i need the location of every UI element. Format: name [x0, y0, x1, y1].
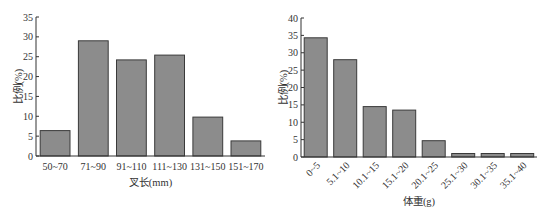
x-tick-label: 0~5 [304, 160, 323, 179]
y-tick-label: 5 [28, 131, 33, 142]
bar-0~5: 0~5: 34.3 [304, 38, 327, 157]
x-tick-label: 5.1~10 [324, 160, 352, 188]
y-tick-label: 40 [288, 13, 298, 24]
fork-length-chart: 50~70: 6.450~7071~90: 2971~9091~110: 24.… [0, 0, 270, 211]
y-axis-title: 比例(%) [12, 68, 25, 104]
y-tick-label: 25 [288, 65, 298, 76]
y-tick-label: 25 [23, 51, 33, 62]
bar-10.1~15: 10.1~15: 14.5 [363, 107, 386, 157]
bar-5.1~10: 5.1~10: 28 [334, 60, 357, 157]
x-tick-label: 71~90 [80, 161, 105, 172]
bar-151~170: 151~170: 3.8 [231, 141, 261, 156]
y-tick-label: 30 [288, 47, 298, 58]
x-axis-title: 叉长(mm) [129, 177, 173, 189]
y-tick-label: 5 [293, 134, 298, 145]
y-tick-label: 20 [288, 82, 298, 93]
bar-35.1~40: 35.1~40: 1 [511, 154, 534, 158]
bar-111~130: 111~130: 25.4 [155, 55, 185, 156]
x-tick-label: 25.1~30 [439, 160, 470, 191]
bar-15.1~20: 15.1~20: 13.5 [393, 110, 416, 157]
y-axis-title: 比例(%) [277, 69, 290, 105]
bar-50~70: 50~70: 6.4 [40, 131, 70, 156]
y-tick-label: 10 [288, 117, 298, 128]
bar-71~90: 71~90: 29 [78, 41, 108, 156]
x-tick-label: 15.1~20 [380, 160, 411, 191]
x-tick-label: 131~150 [190, 161, 225, 172]
x-tick-label: 35.1~40 [498, 160, 529, 191]
body-weight-chart: 0~5: 34.30~55.1~10: 285.1~1010.1~15: 14.… [270, 0, 540, 211]
x-tick-label: 30.1~35 [468, 160, 499, 191]
y-tick-label: 15 [23, 91, 33, 102]
y-tick-label: 20 [23, 71, 33, 82]
x-tick-label: 91~110 [116, 161, 146, 172]
x-tick-label: 50~70 [42, 161, 67, 172]
body-weight-chart-svg: 0~5: 34.30~55.1~10: 285.1~1010.1~15: 14.… [270, 0, 540, 211]
bar-25.1~30: 25.1~30: 1 [452, 154, 475, 158]
bar-131~150: 131~150: 9.8 [193, 117, 223, 156]
y-tick-label: 10 [23, 111, 33, 122]
x-axis-title: 体重(g) [403, 195, 436, 208]
y-tick-label: 0 [293, 152, 298, 163]
x-tick-label: 111~130 [152, 161, 187, 172]
fork-length-chart-svg: 50~70: 6.450~7071~90: 2971~9091~110: 24.… [0, 0, 270, 211]
bar-30.1~35: 30.1~35: 1 [481, 154, 504, 158]
x-tick-label: 20.1~25 [409, 160, 440, 191]
bar-20.1~25: 20.1~25: 4.7 [422, 141, 445, 157]
x-tick-label: 10.1~15 [350, 160, 381, 191]
y-tick-label: 0 [28, 151, 33, 162]
y-tick-label: 35 [23, 12, 33, 23]
y-tick-label: 35 [288, 30, 298, 41]
bar-91~110: 91~110: 24.2 [117, 60, 147, 156]
y-tick-label: 30 [23, 31, 33, 42]
y-tick-label: 15 [288, 99, 298, 110]
x-tick-label: 151~170 [228, 161, 263, 172]
